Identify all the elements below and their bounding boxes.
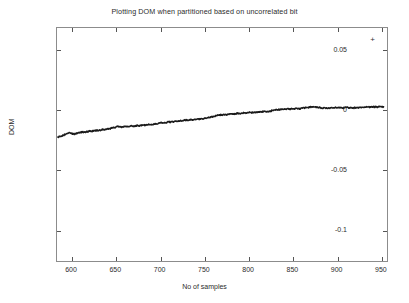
x-tick-700 [161,28,162,32]
y-tick--0.05 [383,170,387,171]
x-tick-900 [338,28,339,32]
y-tick-0.05 [57,50,61,51]
x-tick-label-800: 800 [242,266,254,273]
x-tick-850 [293,257,294,261]
x-tick-label-950: 950 [375,266,387,273]
y-tick-label-0.05: 0.05 [333,45,347,52]
y-tick-label-0: 0 [343,105,347,112]
y-axis-title: DOM [8,119,15,135]
y-tick--0.1 [383,231,387,232]
x-tick-800 [249,257,250,261]
x-tick-label-600: 600 [65,266,77,273]
x-tick-850 [293,28,294,32]
legend-plus-marker: + [369,36,376,43]
chart-title: Plotting DOM when partitioned based on u… [0,7,409,16]
y-tick-0 [57,110,61,111]
x-tick-label-700: 700 [154,266,166,273]
x-tick-label-750: 750 [198,266,210,273]
x-tick-750 [205,28,206,32]
x-tick-650 [116,257,117,261]
y-tick-0 [383,110,387,111]
y-tick-label--0.05: -0.05 [331,166,347,173]
x-tick-650 [116,28,117,32]
y-tick--0.05 [57,170,61,171]
x-tick-950 [382,257,383,261]
x-tick-600 [72,257,73,261]
x-tick-label-650: 650 [109,266,121,273]
x-tick-700 [161,257,162,261]
x-tick-900 [338,257,339,261]
x-tick-750 [205,257,206,261]
x-tick-600 [72,28,73,32]
y-tick--0.1 [57,231,61,232]
x-axis-title: No of samples [0,283,409,290]
x-tick-label-850: 850 [287,266,299,273]
x-tick-label-900: 900 [331,266,343,273]
y-tick-0.05 [383,50,387,51]
chart-screenshot: Plotting DOM when partitioned based on u… [0,0,409,303]
x-tick-950 [382,28,383,32]
y-tick-label--0.1: -0.1 [335,226,347,233]
x-tick-800 [249,28,250,32]
